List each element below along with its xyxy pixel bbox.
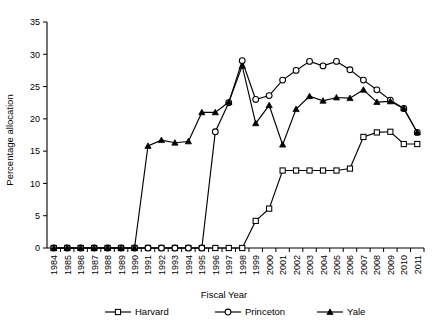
data-point-marker: [374, 130, 379, 135]
x-tick-label: 1986: [76, 255, 86, 275]
data-point-marker: [334, 58, 340, 64]
data-point-marker: [267, 206, 272, 211]
data-point-marker: [213, 245, 218, 250]
data-point-marker: [159, 245, 165, 251]
x-tick-label: 2001: [278, 255, 288, 275]
x-tick-label: 1984: [49, 255, 59, 275]
plot-background: [0, 0, 432, 329]
data-point-marker: [374, 87, 380, 93]
x-tick-label: 2005: [332, 255, 342, 275]
x-tick-label: 1998: [238, 255, 248, 275]
data-point-marker: [226, 245, 231, 250]
data-point-marker: [212, 129, 218, 135]
data-point-marker: [266, 93, 272, 99]
x-tick-label: 1997: [224, 255, 234, 275]
x-axis-title: Fiscal Year: [201, 289, 247, 300]
x-tick-label: 1988: [103, 255, 113, 275]
data-point-marker: [320, 63, 326, 69]
data-point-marker: [307, 58, 313, 64]
data-point-marker: [293, 168, 298, 173]
x-tick-label: 2006: [345, 255, 355, 275]
y-tick-label: 30: [30, 50, 40, 60]
x-tick-label: 2000: [265, 255, 275, 275]
y-tick-label: 35: [30, 17, 40, 27]
data-point-marker: [293, 68, 299, 74]
data-point-marker: [172, 245, 178, 251]
x-tick-label: 1993: [170, 255, 180, 275]
data-point-marker: [361, 77, 367, 83]
data-point-marker: [145, 245, 151, 251]
x-tick-label: 2008: [372, 255, 382, 275]
chart-container: 05101520253035 1984198519861987198819891…: [0, 0, 432, 329]
x-tick-label: 2009: [386, 255, 396, 275]
x-tick-label: 2011: [413, 255, 423, 274]
y-tick-label: 5: [35, 211, 40, 221]
data-point-marker: [199, 245, 205, 251]
line-chart: 05101520253035 1984198519861987198819891…: [0, 0, 432, 329]
x-tick-label: 2004: [319, 255, 329, 275]
x-tick-label: 2007: [359, 255, 369, 275]
data-point-marker: [280, 77, 286, 83]
data-point-marker: [347, 67, 353, 73]
data-point-marker: [388, 129, 393, 134]
x-tick-label: 1999: [251, 255, 261, 275]
x-tick-label: 1991: [143, 255, 153, 275]
data-point-marker: [334, 168, 339, 173]
data-point-marker: [253, 218, 258, 223]
x-tick-label: 2010: [399, 255, 409, 275]
data-point-marker: [115, 309, 120, 314]
x-tick-label: 2002: [292, 255, 302, 275]
x-tick-label: 1994: [184, 255, 194, 275]
y-tick-label: 25: [30, 82, 40, 92]
y-axis-title: Percentage allocation: [4, 94, 15, 185]
data-point-marker: [185, 245, 191, 251]
x-tick-label: 1989: [117, 255, 127, 275]
x-tick-label: 1996: [211, 255, 221, 275]
data-point-marker: [401, 141, 406, 146]
x-tick-label: 1985: [63, 255, 73, 275]
legend-label: Harvard: [135, 306, 169, 317]
data-point-marker: [280, 168, 285, 173]
data-point-marker: [307, 168, 312, 173]
legend-label: Princeton: [245, 306, 285, 317]
x-tick-label: 1990: [130, 255, 140, 275]
x-tick-label: 1995: [197, 255, 207, 275]
y-tick-label: 10: [30, 179, 40, 189]
data-point-marker: [347, 166, 352, 171]
data-point-marker: [225, 309, 231, 315]
x-tick-label: 2003: [305, 255, 315, 275]
legend-label: Yale: [347, 306, 365, 317]
data-point-marker: [361, 134, 366, 139]
y-tick-label: 0: [35, 243, 40, 253]
y-tick-label: 15: [30, 146, 40, 156]
y-tick-label: 20: [30, 114, 40, 124]
x-tick-label: 1987: [90, 255, 100, 275]
data-point-marker: [415, 141, 420, 146]
data-point-marker: [240, 245, 245, 250]
data-point-marker: [320, 168, 325, 173]
data-point-marker: [253, 97, 259, 103]
x-tick-label: 1992: [157, 255, 167, 275]
